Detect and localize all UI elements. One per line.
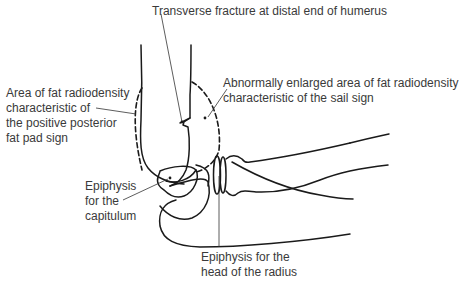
posterior-fat-pad-label: Area of fat radiodensity characteristic … bbox=[6, 86, 129, 146]
capitulum-label-line: capitulum bbox=[85, 209, 136, 224]
fracture-label-line: Transverse fracture at distal end of hum… bbox=[152, 4, 387, 19]
capitulum-label-line: for the bbox=[85, 194, 136, 209]
radial-head-label: Epiphysis for the head of the radius bbox=[201, 250, 297, 280]
posterior-fat-pad-label-line: fat pad sign bbox=[6, 131, 129, 146]
radius-upper-edge bbox=[226, 143, 350, 162]
capitulum-label-line: Epiphysis bbox=[85, 179, 136, 194]
radius-distal-line bbox=[350, 134, 389, 143]
sail-sign-label: Abnormally enlarged area of fat radioden… bbox=[223, 76, 458, 106]
fracture-leader bbox=[161, 14, 182, 122]
humerus-posterior-edge bbox=[141, 45, 184, 184]
ulna-shaft-line bbox=[232, 162, 353, 199]
radial-head-label-line: head of the radius bbox=[201, 265, 297, 280]
capitulum-pointer-dot bbox=[169, 177, 172, 180]
radius-lower-edge bbox=[226, 165, 388, 195]
radial-head-label-line: Epiphysis for the bbox=[201, 250, 297, 265]
posterior-fat-pad-label-line: the positive posterior bbox=[6, 116, 129, 131]
sail-sign-label-line: Abnormally enlarged area of fat radioden… bbox=[223, 76, 458, 91]
sail-sign-pointer-dot bbox=[204, 117, 207, 120]
distal-humerus-condyle bbox=[160, 179, 209, 219]
posterior-fat-pad-label-line: Area of fat radiodensity bbox=[6, 86, 129, 101]
elbow-diagram: Transverse fracture at distal end of hum… bbox=[0, 0, 460, 282]
ulna-outline bbox=[160, 200, 350, 247]
fracture-pointer-dot bbox=[181, 121, 184, 124]
sail-sign-label-line: characteristic of the sail sign bbox=[223, 91, 458, 106]
fracture-label: Transverse fracture at distal end of hum… bbox=[152, 4, 387, 19]
capitulum-label: Epiphysis for the capitulum bbox=[85, 179, 136, 224]
posterior-fat-pad-label-line: characteristic of bbox=[6, 101, 129, 116]
